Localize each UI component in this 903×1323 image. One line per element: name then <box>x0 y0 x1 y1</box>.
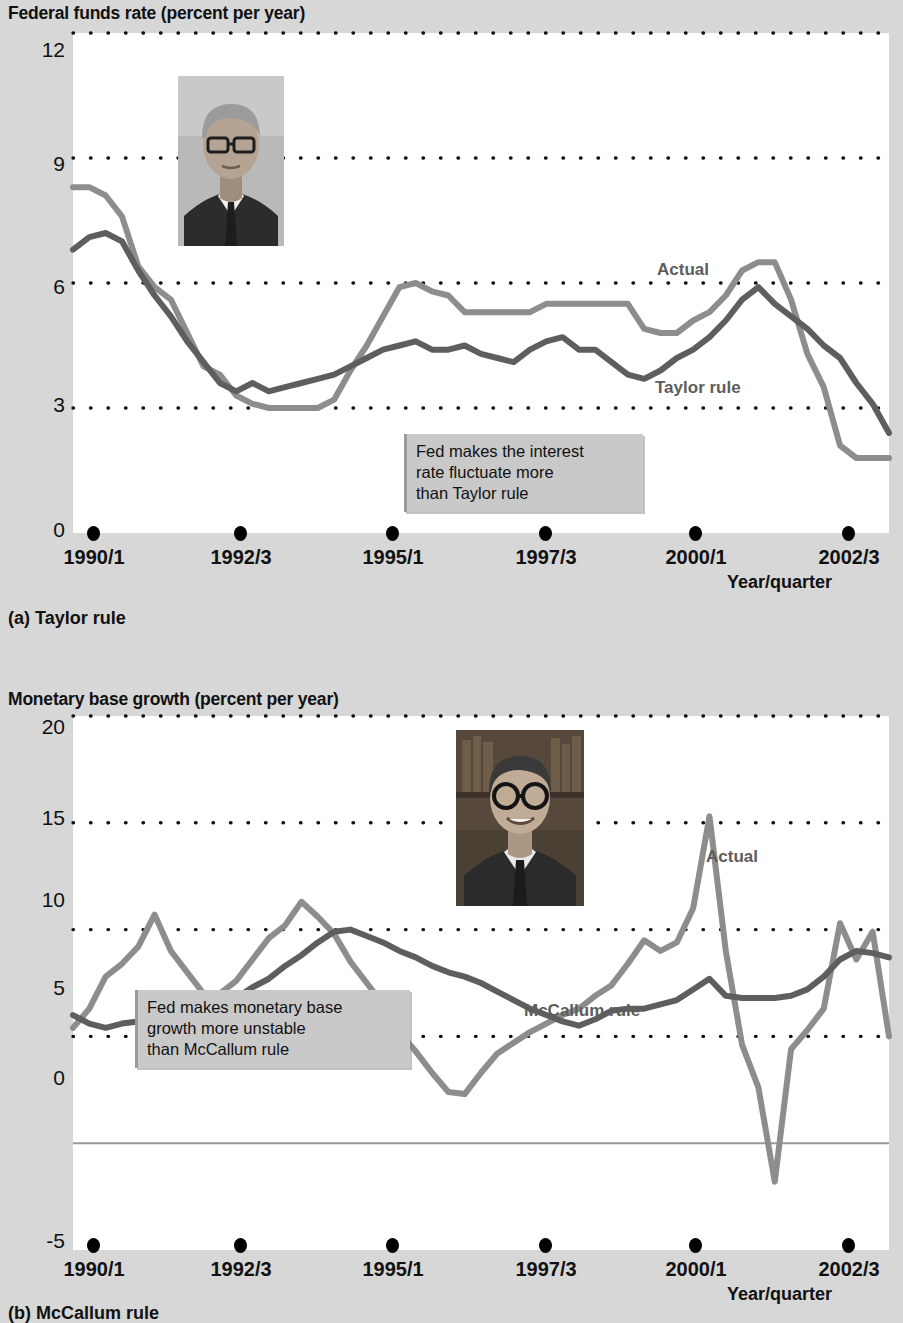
panel-b-ytick-15: 15 <box>3 806 65 830</box>
panel-b-actual-label: Actual <box>706 847 758 867</box>
panel-b-tickdot-2002-3 <box>842 1238 855 1253</box>
john-taylor-portrait <box>178 76 284 246</box>
panel-a-xtick-2000-1: 2000/1 <box>635 546 757 569</box>
panel-b-ytick-5: 5 <box>3 976 65 1000</box>
panel-a-ytick-9: 9 <box>5 152 65 176</box>
panel-b-rule-label: McCallum rule <box>524 1001 640 1021</box>
panel-mccallum-rule: Monetary base growth (percent per year) … <box>0 655 903 1323</box>
panel-a-tickdot-1995-1 <box>386 526 399 541</box>
panel-a-callout: Fed makes the interest rate fluctuate mo… <box>404 434 643 512</box>
panel-b-xtick-1992-3: 1992/3 <box>180 1258 302 1281</box>
panel-taylor-rule: Federal funds rate (percent per year) 12… <box>0 0 903 655</box>
panel-b-xtick-2000-1: 2000/1 <box>635 1258 757 1281</box>
panel-b-tickdot-2000-1 <box>689 1238 702 1253</box>
panel-b-callout-line-3: than McCallum rule <box>147 1039 399 1060</box>
panel-b-x-axis-title: Year/quarter <box>727 1284 832 1305</box>
panel-b-tickdot-1995-1 <box>386 1238 399 1253</box>
panel-b-ytick-20: 20 <box>3 715 65 739</box>
panel-a-tickdot-2002-3 <box>842 526 855 541</box>
panel-b-caption: (b) McCallum rule <box>8 1303 159 1323</box>
panel-a-y-axis-title: Federal funds rate (percent per year) <box>8 3 305 24</box>
panel-a-ytick-0: 0 <box>5 518 65 542</box>
panel-b-ytick-0: 0 <box>3 1066 65 1090</box>
panel-a-ytick-12: 12 <box>5 38 65 62</box>
panel-a-callout-line-1: Fed makes the interest <box>416 441 632 462</box>
panel-a-xtick-1995-1: 1995/1 <box>332 546 454 569</box>
panel-b-callout: Fed makes monetary base growth more unst… <box>135 990 410 1068</box>
panel-a-tickdot-1997-3 <box>539 526 552 541</box>
figure-page: Federal funds rate (percent per year) 12… <box>0 0 903 1323</box>
panel-a-x-axis-title: Year/quarter <box>727 572 832 593</box>
panel-a-caption: (a) Taylor rule <box>8 608 126 629</box>
panel-b-tickdot-1992-3 <box>234 1238 247 1253</box>
panel-a-xtick-1997-3: 1997/3 <box>485 546 607 569</box>
panel-b-tickdot-1997-3 <box>539 1238 552 1253</box>
panel-b-tickdot-1990-1 <box>87 1238 100 1253</box>
panel-b-callout-line-2: growth more unstable <box>147 1018 399 1039</box>
panel-b-xtick-1990-1: 1990/1 <box>33 1258 155 1281</box>
panel-a-actual-label: Actual <box>657 260 709 280</box>
panel-b-xtick-2002-3: 2002/3 <box>788 1258 903 1281</box>
panel-a-tickdot-1990-1 <box>87 526 100 541</box>
panel-a-tickdot-2000-1 <box>689 526 702 541</box>
panel-b-xtick-1997-3: 1997/3 <box>485 1258 607 1281</box>
panel-a-callout-line-3: than Taylor rule <box>416 483 632 504</box>
panel-b-ytick-neg5: -5 <box>3 1229 65 1253</box>
panel-a-ytick-3: 3 <box>5 393 65 417</box>
panel-a-ytick-6: 6 <box>5 275 65 299</box>
panel-b-callout-line-1: Fed makes monetary base <box>147 997 399 1018</box>
panel-a-xtick-1990-1: 1990/1 <box>33 546 155 569</box>
panel-a-xtick-2002-3: 2002/3 <box>788 546 903 569</box>
panel-a-callout-line-2: rate fluctuate more <box>416 462 632 483</box>
panel-a-xtick-1992-3: 1992/3 <box>180 546 302 569</box>
panel-b-y-axis-title: Monetary base growth (percent per year) <box>8 689 339 710</box>
panel-a-tickdot-1992-3 <box>234 526 247 541</box>
panel-a-rule-label: Taylor rule <box>655 378 741 398</box>
bennett-mccallum-portrait <box>456 730 584 906</box>
panel-b-xtick-1995-1: 1995/1 <box>332 1258 454 1281</box>
panel-b-ytick-10: 10 <box>3 888 65 912</box>
